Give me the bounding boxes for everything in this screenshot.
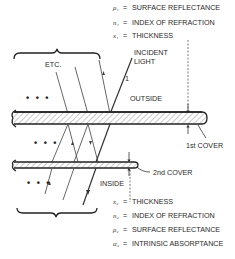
- cover-1-label: 1st COVER: [186, 141, 223, 150]
- legend-bottom-symbol-0: x₂: [112, 198, 119, 206]
- legend-bottom-text-0: THICKNESS: [132, 197, 173, 206]
- reflected-ray-c: [99, 60, 110, 114]
- cover-system-diagram: ρ₁ = SURFACE REFLECTANCE n₁ = INDEX OF R…: [0, 0, 235, 259]
- legend-bottom: x₂ = THICKNESS n₂ = INDEX OF REFRACTION …: [112, 197, 224, 248]
- transmitted-ray-2: [83, 168, 96, 205]
- legend-bottom-symbol-1: n₂: [113, 212, 120, 220]
- cover-1-leader: [198, 125, 206, 138]
- legend-top-eq-0: =: [123, 3, 127, 12]
- legend-bottom-text-1: INDEX OF REFRACTION: [132, 211, 215, 220]
- incident-label-line1: INCIDENT: [134, 48, 169, 57]
- outside-label: OUTSIDE: [130, 94, 162, 103]
- legend-top-eq-1: =: [123, 18, 127, 27]
- legend-bottom-text-2: SURFACE REFLECTANCE: [132, 225, 220, 234]
- legend-top-text-0: SURFACE REFLECTANCE: [132, 3, 220, 12]
- legend-top-text-2: THICKNESS: [132, 31, 173, 40]
- legend-bottom-eq-0: =: [123, 197, 127, 206]
- legend-top-symbol-1: n₁: [113, 19, 119, 27]
- etc-label: ETC.: [45, 60, 61, 69]
- ray-arrow-down-1: [89, 141, 92, 145]
- legend-top: ρ₁ = SURFACE REFLECTANCE n₁ = INDEX OF R…: [112, 3, 220, 40]
- inter-ray-3: [74, 124, 88, 162]
- inter-ray-4: [88, 124, 98, 162]
- ray-arrow-up: [102, 71, 105, 75]
- legend-top-eq-2: =: [123, 31, 127, 40]
- legend-top-symbol-0: ρ₁: [112, 4, 119, 12]
- inside-label: INSIDE: [100, 179, 124, 188]
- legend-bottom-eq-2: =: [123, 225, 127, 234]
- cover-2-label: 2nd COVER: [153, 168, 193, 177]
- legend-bottom-text-3: INTRINSIC ABSORPTANCE: [132, 239, 224, 248]
- incident-light-ray: [110, 58, 132, 114]
- reflected-ray-b: [75, 67, 88, 114]
- transmitted-ray-1: [96, 124, 110, 162]
- bottom-brace: [17, 208, 97, 217]
- legend-top-symbol-2: x₁: [112, 32, 119, 40]
- ellipsis-outside: • • •: [26, 93, 50, 103]
- lower-ray-2: [63, 168, 74, 200]
- cover-2-leader: [137, 167, 150, 172]
- cover-1: [14, 112, 207, 124]
- legend-bottom-symbol-2: ρ₂: [112, 226, 119, 234]
- legend-bottom-symbol-3: α₂: [113, 240, 120, 248]
- legend-bottom-eq-1: =: [123, 211, 127, 220]
- reflected-ray-a: [56, 72, 68, 114]
- ellipsis-between: • • •: [34, 138, 58, 148]
- legend-bottom-eq-3: =: [123, 239, 127, 248]
- top-brace: [14, 49, 100, 59]
- ellipsis-inside: • • •: [27, 178, 51, 188]
- incident-label-line2: LIGHT: [134, 57, 156, 66]
- legend-top-text-1: INDEX OF REFRACTION: [132, 18, 215, 27]
- cover-2: [14, 162, 138, 168]
- ray-arrow-up-2: [71, 141, 74, 145]
